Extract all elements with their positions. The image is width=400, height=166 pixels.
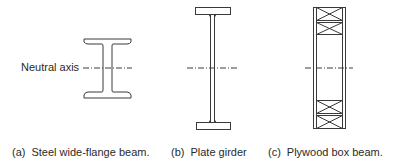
caption-c-tag: (c) [268, 146, 281, 158]
caption-a-tag: (a) [12, 146, 25, 158]
caption-a-text: Steel wide-flange beam. [31, 146, 149, 158]
beam-cross-sections-figure [0, 0, 400, 166]
caption-a: (a)Steel wide-flange beam. [12, 146, 149, 158]
neutral-axis-label: Neutral axis [21, 61, 79, 73]
caption-b-text: Plate girder [190, 146, 246, 158]
caption-c-text: Plywood box beam. [287, 146, 383, 158]
caption-b: (b)Plate girder [171, 146, 247, 158]
caption-c: (c)Plywood box beam. [268, 146, 383, 158]
caption-b-tag: (b) [171, 146, 184, 158]
